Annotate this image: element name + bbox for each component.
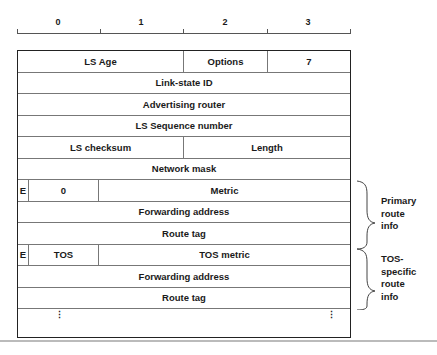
field-metric: Metric [99,180,350,201]
row-network-mask: Network mask [18,159,350,181]
field-length: Length [184,137,350,158]
annotation-line: info [381,220,416,233]
row-checksum-length: LS checksum Length [18,137,350,159]
annotation-line: TOS- [381,253,416,266]
ruler-tick [267,29,268,34]
ruler-tick [350,29,351,34]
annotation-primary-route-info: Primary route info [381,195,416,233]
field-ls-sequence-number: LS Sequence number [18,116,350,137]
field-network-mask: Network mask [18,159,350,180]
field-forwarding-address: Forwarding address [18,266,350,287]
field-zero: 0 [29,180,99,201]
divider [0,340,437,342]
row-route-tag: Route tag [18,223,350,245]
field-route-tag: Route tag [18,288,350,309]
ruler-tick [17,29,18,34]
row-link-state-id: Link-state ID [18,73,350,95]
ruler-tick [100,29,101,34]
field-ls-checksum: LS checksum [18,137,184,158]
annotation-line: Primary [381,195,416,208]
byte-label-3: 3 [298,17,318,27]
field-tos-metric: TOS metric [99,245,350,266]
field-e-bit: E [18,245,29,266]
annotation-line: info [381,291,416,304]
ellipsis-left: ⋮ [55,312,64,319]
brace-icon [355,180,377,310]
row-primary-metric: E 0 Metric [18,180,350,202]
ellipsis-right: ⋮ [327,312,336,319]
field-ls-age: LS Age [18,51,184,72]
field-type: 7 [268,51,350,72]
row-forwarding-address: Forwarding address [18,202,350,224]
row-advertising-router: Advertising router [18,94,350,116]
row-tos-forwarding-address: Forwarding address [18,266,350,288]
ruler-tick [183,29,184,34]
annotation-line: route [381,208,416,221]
field-e-bit: E [18,180,29,201]
byte-label-0: 0 [48,17,68,27]
field-forwarding-address: Forwarding address [18,202,350,223]
row-ls-sequence: LS Sequence number [18,116,350,138]
annotation-line: route [381,278,416,291]
row-tos-metric: E TOS TOS metric [18,245,350,267]
field-link-state-id: Link-state ID [18,73,350,94]
annotation-line: specific [381,266,416,279]
row-ls-age: LS Age Options 7 [18,51,350,73]
row-continuation: ⋮ ⋮ [18,309,350,337]
field-options: Options [184,51,268,72]
field-advertising-router: Advertising router [18,94,350,115]
field-route-tag: Route tag [18,223,350,244]
annotation-tos-specific-route-info: TOS- specific route info [381,253,416,303]
byte-label-2: 2 [215,17,235,27]
bit-ruler-line [17,33,351,34]
row-tos-route-tag: Route tag [18,288,350,310]
lsa-packet-format: LS Age Options 7 Link-state ID Advertisi… [17,50,351,338]
byte-label-1: 1 [131,17,151,27]
field-tos: TOS [29,245,99,266]
